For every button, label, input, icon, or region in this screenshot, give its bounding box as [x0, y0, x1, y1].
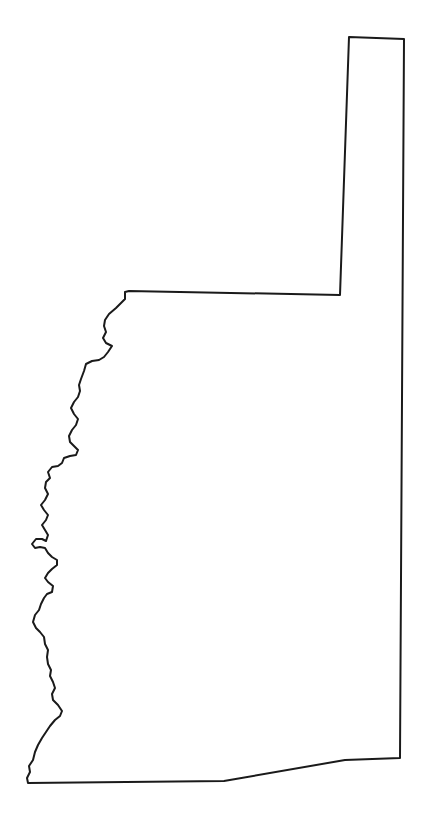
region-outline — [27, 37, 404, 783]
region-map — [0, 0, 425, 825]
